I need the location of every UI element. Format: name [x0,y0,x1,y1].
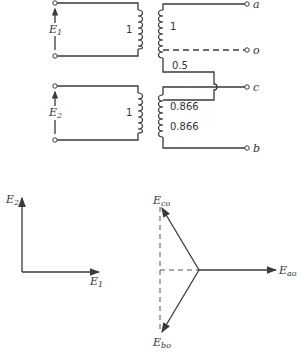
phasor-e1-label: E1 [89,275,103,289]
label-b: b [253,142,260,155]
output-phasor-diagram: Eco Eao Ebo [152,194,297,350]
phasor-eco-label: Eco [152,194,171,208]
secondary-coil-top [159,10,164,58]
label-o: o [253,44,260,57]
phasor-eao-label: Eao [278,264,297,278]
terminal-a[interactable] [245,2,249,6]
secondary-top-upper-turns: 1 [170,21,176,32]
phasor-ebo-label: Ebo [152,336,171,350]
primary-top-turns: 1 [126,24,132,35]
secondary-winding-top: a o 1 0.5 [159,0,261,100]
terminal-o[interactable] [245,48,249,52]
terminal-c[interactable] [245,85,249,89]
secondary-winding-bottom: c b 0.866 0.866 [159,81,261,155]
primary-coil-bottom [138,93,143,133]
label-a: a [253,0,260,11]
phasor-e2-label: E2 [5,193,19,207]
terminal-e1-top[interactable] [53,1,57,5]
terminal-e2-top[interactable] [53,84,57,88]
secondary-bottom-upper-turns: 0.866 [170,101,199,112]
e2-label: E2 [48,106,62,120]
secondary-bottom-lower-turns: 0.866 [170,121,199,132]
primary-winding-bottom: E2 1 [48,84,143,142]
primary-winding-top: E1 1 [48,1,143,58]
secondary-top-lower-turns: 0.5 [172,60,188,71]
input-phasor-diagram: E2 E1 [5,193,103,289]
terminal-e2-bottom[interactable] [53,138,57,142]
eco-phasor-arrow [162,208,199,270]
ebo-phasor-arrow [162,270,199,332]
terminal-b[interactable] [245,146,249,150]
terminal-e1-bottom[interactable] [53,54,57,58]
secondary-coil-bottom [159,95,164,137]
primary-bottom-turns: 1 [126,107,132,118]
e1-label: E1 [48,23,62,37]
primary-coil-top [138,10,143,49]
scott-transformer-diagram: E1 1 a o 1 0.5 E2 1 c b 0.866 0.866 [0,0,300,354]
label-c: c [253,81,259,94]
